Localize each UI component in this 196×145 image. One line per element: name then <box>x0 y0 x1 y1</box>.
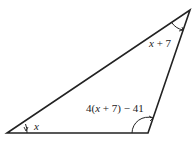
angle-arc-bottom-right <box>132 117 153 133</box>
angle-label-bottom-right: 4(x + 7) − 41 <box>86 102 144 115</box>
triangle <box>7 10 190 133</box>
angle-label-top-right: x + 7 <box>148 37 172 49</box>
angle-arc-top-right <box>172 23 183 30</box>
angle-label-bottom-left: x <box>33 120 39 132</box>
triangle-diagram: x x + 7 4(x + 7) − 41 <box>0 0 196 145</box>
